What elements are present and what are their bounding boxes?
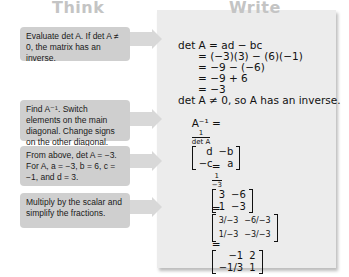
inverse-lhs: A⁻¹ = [192, 117, 221, 129]
cell: −1 [216, 250, 246, 262]
arrow-4 [128, 200, 154, 214]
cell: −6/−3 [241, 214, 273, 228]
think-step-4: Multiply by the scalar and simplify the … [20, 193, 130, 228]
arrow-2 [128, 112, 154, 126]
arrow-1-head [152, 29, 162, 49]
think-step-1: Evaluate det A. If det A ≠ 0, the matrix… [20, 27, 130, 61]
write-heading: Write [229, 0, 281, 17]
cell: 2 [246, 250, 258, 262]
arrow-3-head [152, 151, 162, 171]
frac-num: 1 [212, 172, 222, 181]
equals-sign: = [212, 160, 221, 172]
frac-den: det A [192, 138, 211, 146]
result-expression: = −12 −1/31 [205, 228, 263, 274]
result-matrix: −12 −1/31 [212, 250, 263, 274]
equals-sign: = [212, 238, 221, 250]
equals-sign: = [212, 202, 221, 214]
cell: 1 [246, 262, 258, 274]
arrow-3 [128, 154, 154, 168]
think-step-2: Find A⁻¹. Switch elements on the main di… [20, 100, 130, 141]
frac-num: 1 [192, 129, 211, 138]
arrow-1 [128, 32, 154, 46]
think-step-3: From above, det A = −3. For A, a = −3, b… [20, 146, 130, 186]
frac-den: −3 [212, 181, 222, 189]
det-conclusion: det A ≠ 0, so A has an inverse. [178, 95, 341, 106]
cell: −1/3 [216, 262, 246, 274]
scalar-fraction: 1det A [192, 129, 211, 146]
arrow-2-head [152, 109, 162, 129]
cell: 3/−3 [216, 214, 242, 228]
arrow-4-head [152, 197, 162, 217]
think-heading: Think [52, 0, 104, 17]
scalar-fraction: 1−3 [212, 172, 222, 189]
